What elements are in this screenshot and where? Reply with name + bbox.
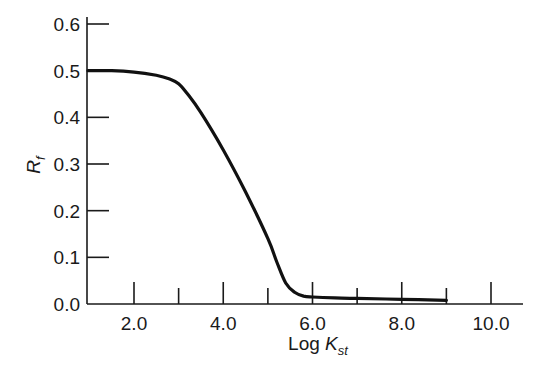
y-axis-title: Rf: [23, 155, 48, 174]
y-tick-label: 0.3: [54, 154, 80, 175]
chart: 0.00.10.20.30.40.50.6 2.04.06.08.010.0 L…: [0, 0, 536, 379]
x-tick-labels: 2.04.06.08.010.0: [121, 313, 510, 334]
y-tick-label: 0.6: [54, 14, 80, 35]
x-axis-title-sub: st: [338, 343, 350, 358]
y-tick-label: 0.4: [54, 107, 81, 128]
x-tick-label: 2.0: [121, 313, 147, 334]
y-axis-title-sub: f: [33, 155, 48, 160]
x-axis-title: Log Kst: [288, 333, 349, 358]
y-tick-label: 0.0: [54, 294, 80, 315]
x-tick-label: 8.0: [389, 313, 415, 334]
y-tick-labels: 0.00.10.20.30.40.50.6: [54, 14, 81, 315]
y-tick-label: 0.2: [54, 201, 80, 222]
data-curve: [88, 71, 446, 301]
axes: [87, 17, 523, 304]
x-axis-title-main: Log: [288, 333, 325, 354]
x-tick-label: 6.0: [299, 313, 325, 334]
x-tick-label: 4.0: [210, 313, 236, 334]
x-tick-label: 10.0: [473, 313, 510, 334]
y-tick-label: 0.5: [54, 61, 80, 82]
y-tick-label: 0.1: [54, 247, 80, 268]
y-axis-title-var: R: [23, 160, 44, 174]
y-ticks: [87, 24, 109, 257]
